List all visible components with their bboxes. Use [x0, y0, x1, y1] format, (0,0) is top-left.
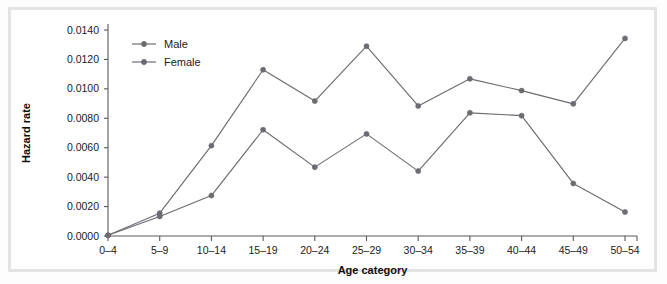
- data-point: [571, 181, 576, 186]
- chart-plot-area: 0.00000.00200.00400.00600.00800.01000.01…: [0, 0, 667, 284]
- x-tick-label: 20–24: [300, 244, 329, 256]
- data-point: [571, 101, 576, 106]
- data-point: [364, 44, 369, 49]
- legend-label: Male: [164, 38, 188, 50]
- data-point: [261, 127, 266, 132]
- y-tick-label: 0.0040: [67, 171, 99, 183]
- x-tick-label: 5–9: [151, 244, 169, 256]
- x-tick-label: 0–4: [99, 244, 117, 256]
- y-tick-label: 0.0020: [67, 200, 99, 212]
- data-point: [467, 110, 472, 115]
- data-point: [157, 211, 162, 216]
- data-point: [467, 76, 472, 81]
- legend-item-male: Male: [132, 38, 188, 50]
- y-axis-title: Hazard rate: [20, 103, 32, 163]
- x-tick-label: 30–34: [404, 244, 433, 256]
- y-axis-tick-labels: 0.00000.00200.00400.00600.00800.01000.01…: [67, 24, 99, 242]
- data-point: [312, 165, 317, 170]
- x-tick-label: 40–44: [507, 244, 536, 256]
- data-point: [261, 67, 266, 72]
- legend-item-female: Female: [132, 56, 201, 68]
- data-point: [623, 210, 628, 215]
- x-tick-label: 10–14: [197, 244, 226, 256]
- x-tick-label: 25–29: [352, 244, 381, 256]
- y-tick-label: 0.0080: [67, 112, 99, 124]
- x-tick-label: 50–54: [610, 244, 639, 256]
- data-point: [209, 193, 214, 198]
- legend-swatch-marker: [142, 60, 147, 65]
- chart-legend: MaleFemale: [132, 38, 201, 68]
- x-axis-tick-labels: 0–45–910–1415–1920–2425–2930–3435–3940–4…: [99, 244, 640, 256]
- x-tick-label: 35–39: [455, 244, 484, 256]
- legend-label: Female: [164, 56, 201, 68]
- line-chart: 0.00000.00200.00400.00600.00800.01000.01…: [0, 0, 667, 284]
- data-point: [623, 36, 628, 41]
- figure-container: 0.00000.00200.00400.00600.00800.01000.01…: [0, 0, 667, 284]
- y-axis-ticks: [104, 30, 108, 236]
- x-tick-label: 45–49: [559, 244, 588, 256]
- x-axis-ticks: [108, 236, 637, 241]
- data-point: [364, 131, 369, 136]
- series-male: [106, 110, 628, 237]
- y-tick-label: 0.0100: [67, 82, 99, 94]
- data-point: [519, 88, 524, 93]
- data-point: [312, 99, 317, 104]
- y-tick-label: 0.0060: [67, 141, 99, 153]
- data-point: [106, 233, 111, 238]
- y-tick-label: 0.0140: [67, 24, 99, 36]
- legend-swatch-marker: [142, 42, 147, 47]
- data-point: [416, 169, 421, 174]
- x-axis-title: Age category: [338, 264, 409, 276]
- data-point: [209, 143, 214, 148]
- x-tick-label: 15–19: [248, 244, 277, 256]
- data-point: [519, 113, 524, 118]
- data-point: [416, 103, 421, 108]
- y-tick-label: 0.0000: [67, 230, 99, 242]
- y-tick-label: 0.0120: [67, 53, 99, 65]
